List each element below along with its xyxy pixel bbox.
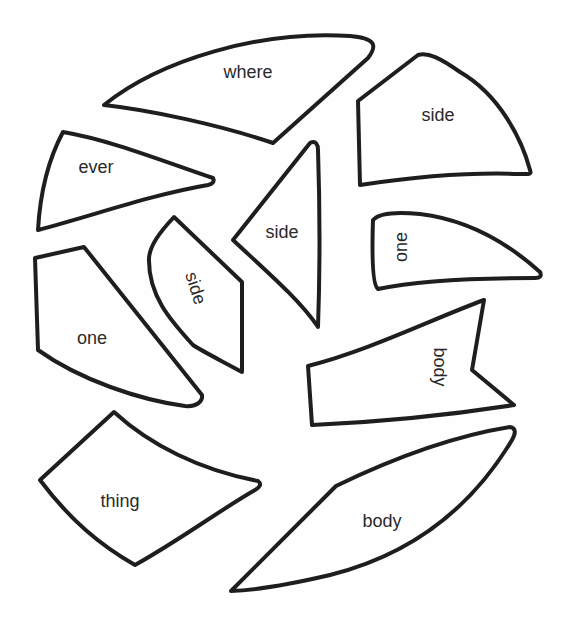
piece-label-thing: thing — [100, 491, 139, 511]
puzzle-pieces: where side ever side side one — [0, 0, 567, 622]
piece-ever[interactable]: ever — [38, 132, 214, 230]
piece-label-one-right: one — [391, 232, 411, 262]
piece-side-center[interactable]: side — [233, 142, 320, 327]
puzzle-canvas: where side ever side side one — [0, 0, 567, 622]
piece-where[interactable]: where — [104, 35, 373, 143]
piece-body-right[interactable]: body — [308, 300, 514, 425]
piece-side-top-right[interactable]: side — [358, 54, 531, 185]
piece-label-where: where — [222, 62, 272, 82]
piece-label-side-center: side — [265, 222, 298, 242]
piece-label-ever: ever — [78, 157, 113, 177]
piece-label-one-left: one — [77, 328, 107, 348]
piece-body-bottom[interactable]: body — [231, 427, 515, 591]
piece-label-body-right: body — [430, 347, 450, 386]
piece-label-side-top-right: side — [421, 105, 454, 125]
piece-thing[interactable]: thing — [40, 412, 260, 565]
piece-label-body-bottom: body — [362, 511, 401, 531]
piece-one-right[interactable]: one — [373, 213, 541, 289]
